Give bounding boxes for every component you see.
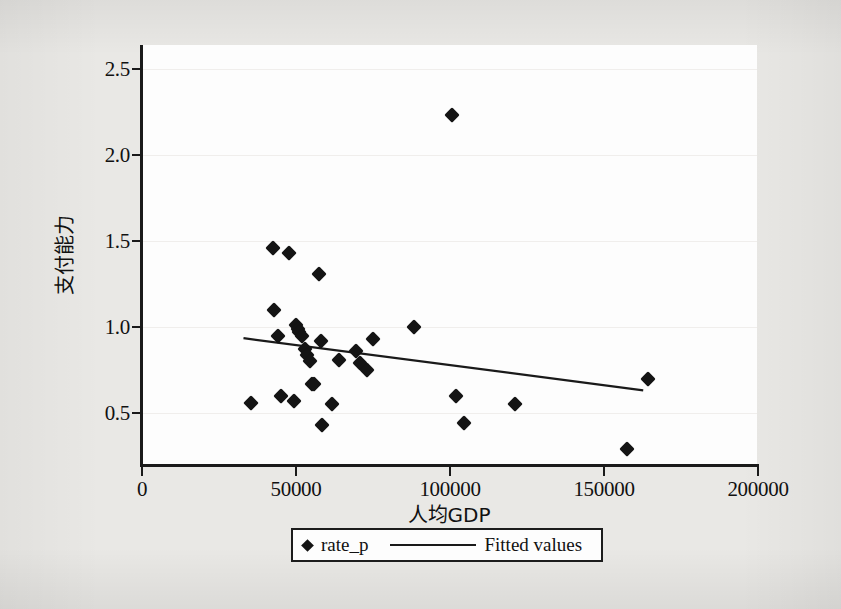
y-tick-2.0 bbox=[132, 154, 141, 156]
x-tick-150000 bbox=[603, 466, 605, 476]
scatter-plot-figure: 2.5 2.0 1.5 1.0 0.5 0 50000 100000 15000… bbox=[0, 0, 841, 609]
y-tick-0.5 bbox=[132, 412, 141, 414]
y-tick-2.5 bbox=[132, 68, 141, 70]
x-tick-0 bbox=[141, 466, 143, 476]
legend-box: rate_p Fitted values bbox=[291, 528, 603, 562]
y-tick-label-0.5: 0.5 bbox=[78, 401, 130, 426]
y-tick-1.0 bbox=[132, 326, 141, 328]
y-tick-label-1.5: 1.5 bbox=[78, 229, 130, 254]
legend-entry-rate-p: rate_p bbox=[293, 534, 368, 556]
x-tick-label-50000: 50000 bbox=[236, 477, 356, 502]
y-tick-label-2.0: 2.0 bbox=[78, 143, 130, 168]
x-tick-50000 bbox=[295, 466, 297, 476]
line-marker-icon bbox=[390, 544, 476, 546]
x-axis-title: 人均GDP bbox=[389, 499, 509, 528]
x-tick-200000 bbox=[757, 466, 759, 476]
x-tick-100000 bbox=[449, 466, 451, 476]
gridline-y-1.5 bbox=[142, 241, 757, 242]
legend-label-fitted-values: Fitted values bbox=[484, 534, 582, 556]
x-tick-label-150000: 150000 bbox=[536, 477, 672, 502]
y-tick-label-1.0: 1.0 bbox=[78, 315, 130, 340]
x-tick-label-200000: 200000 bbox=[690, 477, 826, 502]
screenshot-page: 2.5 2.0 1.5 1.0 0.5 0 50000 100000 15000… bbox=[0, 0, 841, 609]
gridline-y-0.5 bbox=[142, 413, 757, 414]
gridline-y-2.5 bbox=[142, 69, 757, 70]
legend-entry-fitted-values: Fitted values bbox=[368, 534, 582, 556]
y-tick-label-2.5: 2.5 bbox=[78, 57, 130, 82]
gridline-y-1.0 bbox=[142, 327, 757, 328]
y-tick-1.5 bbox=[132, 240, 141, 242]
gridline-y-2.0 bbox=[142, 155, 757, 156]
x-tick-label-0: 0 bbox=[102, 477, 182, 502]
y-axis-title: 支付能力 bbox=[49, 195, 78, 315]
diamond-marker-icon bbox=[301, 539, 314, 552]
y-axis-line bbox=[140, 45, 143, 466]
legend-label-rate-p: rate_p bbox=[321, 534, 368, 556]
